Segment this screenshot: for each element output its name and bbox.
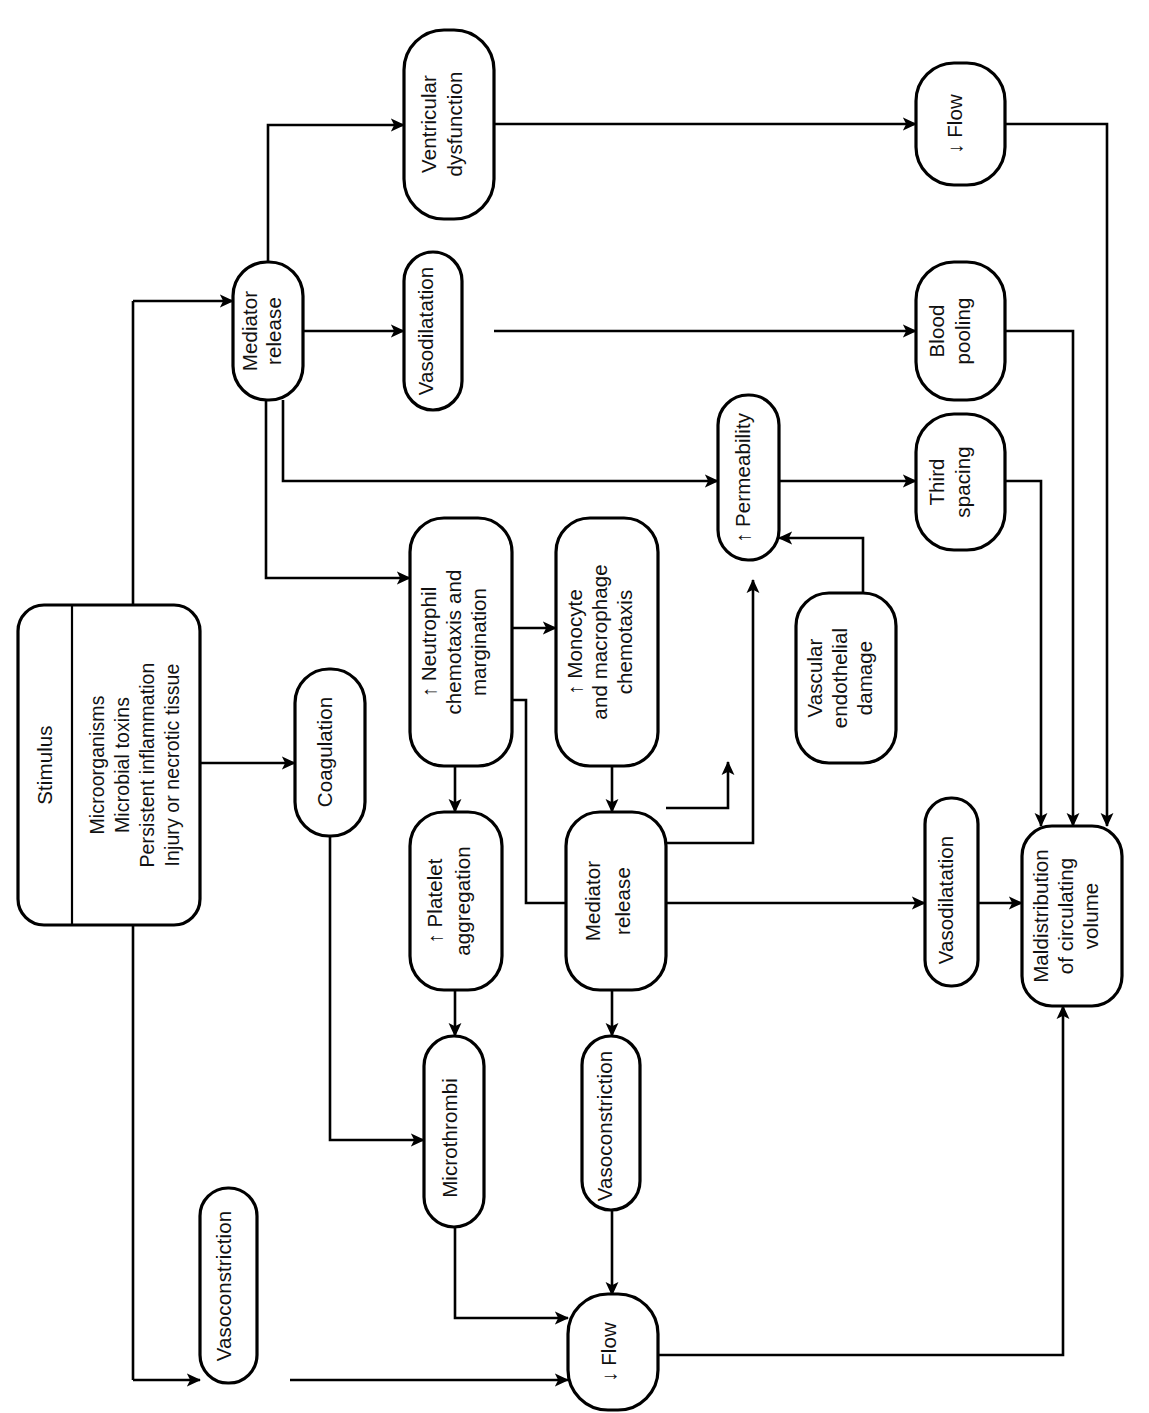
node-stimulus-item-1: Microbial toxins — [111, 697, 133, 833]
node-neutrophil-chemotaxis-line-1: chemotaxis and — [442, 570, 465, 715]
node-vasoconstriction-left-label: Vasoconstriction — [212, 1211, 235, 1362]
node-ventricular-dysfunction-line-0: Ventricular — [417, 75, 440, 173]
node-vasoconstriction-mid[interactable]: Vasoconstriction — [582, 1036, 640, 1210]
node-mediator-release-top-line-1: release — [262, 297, 285, 365]
edge-mediator-mid-to-endothelial — [666, 762, 728, 808]
node-neutrophil-chemotaxis-line-0: ↑ Neutrophil — [417, 587, 440, 698]
node-mediator-release-top[interactable]: Mediator release — [233, 262, 303, 400]
node-vasodilatation-top-label: Vasodilatation — [414, 267, 437, 396]
node-permeability-label: ↑ Permeability — [731, 412, 754, 543]
node-flow-top-label: ↓ Flow — [943, 94, 966, 154]
node-maldistribution-line-1: of circulating — [1054, 858, 1077, 974]
node-vasodilatation-top[interactable]: Vasodilatation — [404, 252, 462, 410]
node-vasoconstriction-mid-label: Vasoconstriction — [593, 1051, 616, 1202]
edge-endothelial-to-permeability — [779, 538, 863, 593]
node-vasodilatation-right[interactable]: Vasodilatation — [925, 798, 978, 986]
node-coagulation-label: Coagulation — [313, 697, 336, 808]
node-maldistribution[interactable]: Maldistribution of circulating volume — [1022, 826, 1122, 1006]
node-platelet-aggregation-line-0: ↑ Platelet — [423, 858, 446, 944]
node-flow-bottom-label: ↓ Flow — [597, 1322, 620, 1382]
node-third-spacing[interactable]: Third spacing — [916, 414, 1005, 550]
node-microthrombi-label: Microthrombi — [438, 1078, 461, 1198]
node-monocyte-chemotaxis[interactable]: ↑ Monocyte and macrophage chemotaxis — [556, 518, 658, 766]
node-stimulus-item-2: Persistent inflammation — [136, 663, 158, 868]
flowchart-svg: Stimulus Microorganisms Microbial toxins… — [0, 0, 1149, 1413]
node-monocyte-chemotaxis-line-0: ↑ Monocyte — [563, 589, 586, 695]
edge-mediator-top-to-ventricular — [268, 125, 404, 262]
node-permeability[interactable]: ↑ Permeability — [718, 395, 779, 560]
edge-third-spacing-to-maldistribution — [1005, 481, 1041, 826]
node-vascular-endothelial-damage-line-0: Vascular — [803, 638, 826, 717]
node-ventricular-dysfunction-line-1: dysfunction — [443, 72, 466, 177]
node-blood-pooling[interactable]: Blood pooling — [916, 262, 1005, 400]
node-vasodilatation-right-label: Vasodilatation — [934, 836, 957, 965]
node-third-spacing-line-0: Third — [925, 458, 948, 505]
flowchart-canvas: Stimulus Microorganisms Microbial toxins… — [0, 0, 1149, 1413]
edge-microthrombi-to-flow-bottom — [455, 1227, 568, 1318]
edge-flow-top-to-maldistribution — [1005, 124, 1107, 826]
node-monocyte-chemotaxis-line-2: chemotaxis — [613, 590, 636, 695]
node-coagulation[interactable]: Coagulation — [295, 669, 365, 836]
node-mediator-release-mid[interactable]: Mediator release — [566, 812, 666, 990]
node-layer: Stimulus Microorganisms Microbial toxins… — [18, 30, 1122, 1410]
node-mediator-release-mid-line-0: Mediator — [581, 861, 604, 942]
node-maldistribution-line-2: volume — [1079, 883, 1102, 950]
edge-mediator-top-to-neutrophil — [266, 400, 410, 578]
edge-blood-pooling-to-maldistribution — [1005, 331, 1073, 826]
node-stimulus[interactable]: Stimulus Microorganisms Microbial toxins… — [18, 605, 200, 925]
node-mediator-release-mid-line-1: release — [611, 867, 634, 935]
node-mediator-release-top-line-0: Mediator — [238, 291, 261, 372]
node-maldistribution-line-0: Maldistribution — [1029, 849, 1052, 983]
node-flow-bottom[interactable]: ↓ Flow — [568, 1294, 658, 1410]
node-platelet-aggregation[interactable]: ↑ Platelet aggregation — [410, 812, 502, 990]
edge-mediator-top-to-permeability — [283, 400, 718, 481]
node-neutrophil-chemotaxis[interactable]: ↑ Neutrophil chemotaxis and margination — [410, 518, 512, 766]
node-stimulus-item-3: Injury or necrotic tissue — [161, 664, 183, 867]
node-ventricular-dysfunction[interactable]: Ventricular dysfunction — [404, 30, 494, 219]
node-vascular-endothelial-damage-line-1: endothelial — [828, 628, 851, 728]
edge-flow-bottom-to-maldistribution — [658, 1006, 1063, 1355]
node-blood-pooling-line-0: Blood — [925, 305, 948, 358]
node-stimulus-label: Stimulus — [33, 725, 56, 804]
edge-mediator-mid-to-permeability — [666, 580, 753, 843]
node-microthrombi[interactable]: Microthrombi — [424, 1036, 484, 1227]
node-flow-top[interactable]: ↓ Flow — [916, 63, 1005, 185]
node-platelet-aggregation-line-1: aggregation — [451, 846, 474, 955]
node-neutrophil-chemotaxis-line-2: margination — [467, 588, 490, 696]
node-monocyte-chemotaxis-line-1: and macrophage — [588, 564, 611, 719]
node-vascular-endothelial-damage-line-2: damage — [853, 641, 876, 716]
node-blood-pooling-line-1: pooling — [951, 298, 974, 365]
node-vascular-endothelial-damage[interactable]: Vascular endothelial damage — [796, 593, 896, 763]
node-stimulus-item-0: Microorganisms — [86, 695, 108, 834]
node-vasoconstriction-left[interactable]: Vasoconstriction — [200, 1188, 257, 1383]
node-third-spacing-line-1: spacing — [951, 446, 974, 517]
